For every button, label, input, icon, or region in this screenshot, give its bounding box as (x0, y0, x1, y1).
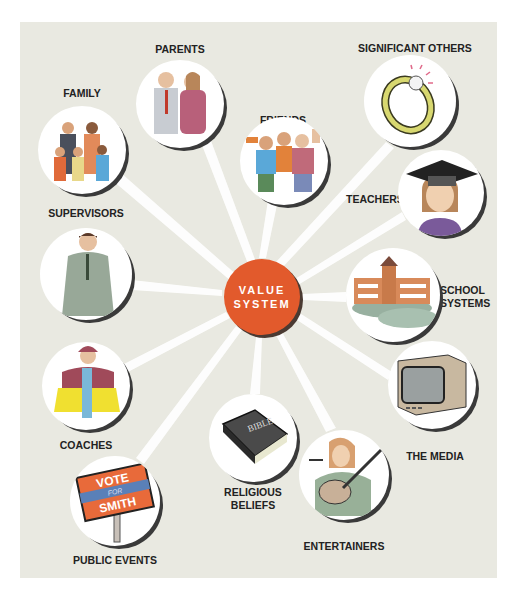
ring-icon (364, 55, 456, 147)
arrow-supervisors (132, 280, 222, 296)
label-religious-beliefs: RELIGIOUS BELIEFS (224, 486, 282, 512)
label-significant-others: SIGNIFICANT OTHERS (358, 42, 472, 55)
hub-label-line2: SYSTEM (233, 297, 290, 311)
hub-label-line1: VALUE (239, 283, 285, 297)
label-public-events: PUBLIC EVENTS (73, 554, 157, 567)
label-religious-beliefs-line1: RELIGIOUS (224, 486, 282, 499)
label-school-systems-line1: SCHOOL (440, 284, 490, 297)
label-coaches: COACHES (60, 439, 113, 452)
businessman-icon (40, 228, 132, 320)
arrow-school-systems (302, 292, 346, 302)
label-entertainers: ENTERTAINERS (304, 540, 385, 553)
node-religious-beliefs: BIBLE (209, 394, 297, 482)
node-family (38, 106, 126, 194)
coach-icon (42, 342, 130, 430)
node-teachers (398, 150, 484, 236)
family-icon (38, 106, 126, 194)
school-building-icon (346, 248, 440, 342)
label-school-systems-line2: SYSTEMS (440, 297, 490, 310)
node-supervisors (40, 228, 132, 320)
node-parents (136, 60, 224, 148)
graduate-icon (398, 150, 484, 236)
campaign-sign-icon: VOTE FOR SMITH (70, 456, 160, 546)
label-parents: PARENTS (155, 43, 204, 56)
node-public-events: VOTE FOR SMITH (70, 456, 160, 546)
label-family: FAMILY (63, 87, 101, 100)
label-the-media: THE MEDIA (406, 450, 464, 463)
label-religious-beliefs-line2: BELIEFS (224, 499, 282, 512)
parents-icon (136, 60, 224, 148)
television-icon (388, 341, 476, 429)
node-coaches (42, 342, 130, 430)
node-school-systems (346, 248, 440, 342)
value-system-hub: VALUE SYSTEM (224, 259, 300, 335)
bible-icon: BIBLE (209, 394, 297, 482)
arrow-religious-beliefs (250, 337, 262, 394)
label-school-systems: SCHOOL SYSTEMS (440, 284, 490, 310)
node-friends (240, 117, 328, 205)
friends-icon (240, 117, 328, 205)
guitar-singer-icon (299, 430, 389, 520)
node-significant-others (364, 55, 456, 147)
node-entertainers (299, 430, 389, 520)
node-the-media (388, 341, 476, 429)
label-teachers: TEACHERS (346, 193, 404, 206)
label-supervisors: SUPERVISORS (48, 207, 124, 220)
arrow-friends (259, 200, 278, 258)
